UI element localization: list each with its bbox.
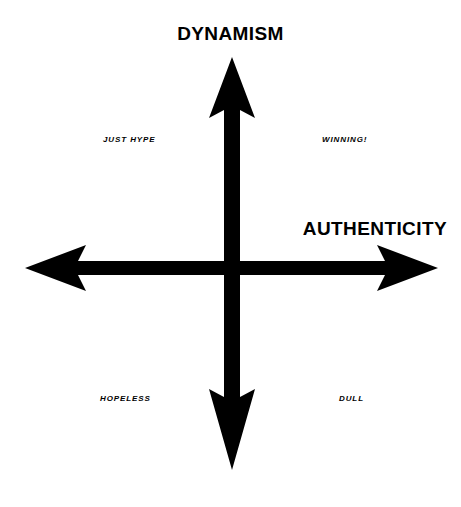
quadrant-label-just-hype: JUST HYPE (103, 136, 156, 144)
quadrant-label-dull: DULL (339, 395, 364, 403)
matrix-diagram: DYNAMISM AUTHENTICITY JUST HYPE WINNING!… (0, 0, 461, 507)
quadrant-label-hopeless: HOPELESS (100, 395, 151, 403)
axes-cross (0, 0, 461, 507)
axis-label-authenticity: AUTHENTICITY (0, 219, 447, 238)
quadrant-label-winning: WINNING! (322, 136, 367, 144)
axis-label-dynamism: DYNAMISM (0, 24, 461, 43)
